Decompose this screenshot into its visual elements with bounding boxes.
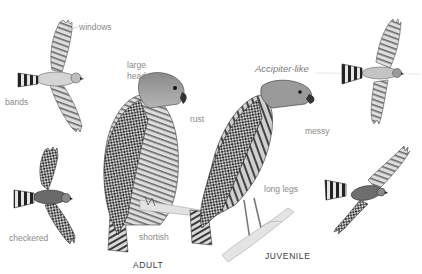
flying-juvenile-bottom-right <box>325 146 410 234</box>
flying-adult-top-right <box>342 19 404 124</box>
label-large-head-line1: large <box>127 60 146 70</box>
label-bands: bands <box>5 97 28 107</box>
label-messy: messy <box>305 126 330 136</box>
flying-adult-top-left <box>18 20 84 132</box>
caption-juvenile: JUVENILE <box>265 251 310 261</box>
label-accipiter-like: Accipiter-like <box>255 64 309 74</box>
illustration-plate: windows bands checkered large head rust … <box>0 0 422 274</box>
label-rust: rust <box>190 114 204 124</box>
label-large-head-line2: head <box>127 71 146 81</box>
label-windows: windows <box>79 22 112 32</box>
caption-adult: ADULT <box>133 260 163 270</box>
label-checkered: checkered <box>9 233 48 243</box>
flying-juvenile-bottom-left <box>14 147 75 244</box>
perched-adult <box>104 73 200 252</box>
bird-drawings <box>0 0 422 274</box>
label-shortish: shortish <box>139 232 169 242</box>
label-long-legs: long legs <box>264 184 298 194</box>
